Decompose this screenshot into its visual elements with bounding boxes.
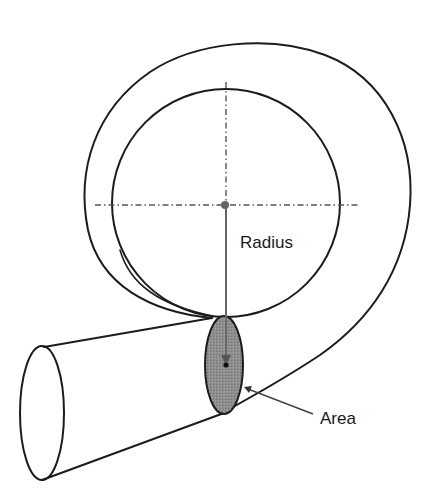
area-leader-line	[248, 389, 313, 414]
discharge-outlet-ellipse	[20, 346, 64, 480]
area-centroid-point	[223, 362, 228, 367]
center-point	[221, 201, 229, 209]
outer-volute-curve	[85, 43, 411, 412]
area-label: Area	[320, 409, 356, 428]
discharge-pipe-top-edge	[44, 318, 212, 347]
radius-label: Radius	[240, 233, 293, 252]
discharge-pipe-bottom-edge	[42, 413, 224, 480]
volute-inner-wall-curve	[120, 250, 212, 316]
diagram-canvas: Radius Area	[0, 0, 434, 503]
volute-diagram: Radius Area	[0, 0, 434, 503]
